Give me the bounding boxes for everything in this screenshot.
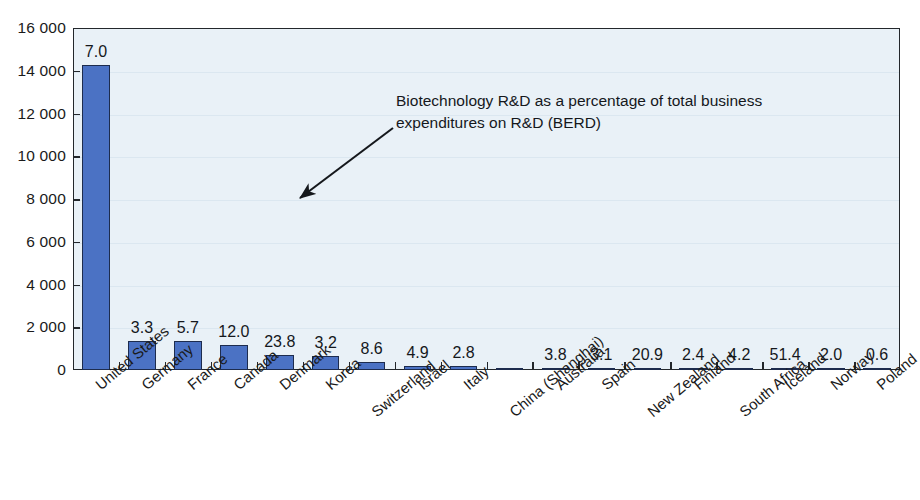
bar-slot: 2.8 <box>441 28 487 370</box>
annotation-callout: Biotechnology R&D as a percentage of tot… <box>396 90 816 135</box>
bar-value-label: 12.0 <box>218 323 249 341</box>
bar-slot: 2.0 <box>808 28 854 370</box>
y-axis-tick-label: 6 000 <box>26 233 66 251</box>
bar-slot: 4.9 <box>395 28 441 370</box>
bar-slot: 0.6 <box>854 28 900 370</box>
y-axis-tick-label: 14 000 <box>17 62 66 80</box>
bar-value-label: 5.7 <box>177 319 199 337</box>
bars-layer: 7.03.35.712.023.83.28.64.92.83.83.120.92… <box>73 28 900 370</box>
bar-slot: 3.8 <box>532 28 578 370</box>
bar-value-label: 20.9 <box>632 346 663 364</box>
x-axis-labels: United StatesGermanyFranceCanadaDenmarkK… <box>0 370 913 500</box>
bar[interactable] <box>82 65 110 370</box>
bar-slot: 12.0 <box>211 28 257 370</box>
y-axis-tick-label: 10 000 <box>17 147 66 165</box>
bar-slot: 3.3 <box>119 28 165 370</box>
y-axis-tick-label: 8 000 <box>26 190 66 208</box>
bar-slot: 51.4 <box>762 28 808 370</box>
bar-slot: 7.0 <box>73 28 119 370</box>
annotation-arrow-icon <box>280 125 400 210</box>
y-axis-tick-label: 2 000 <box>26 318 66 336</box>
annotation-line-1: Biotechnology R&D as a percentage of tot… <box>396 90 816 112</box>
bar-slot: 2.4 <box>670 28 716 370</box>
bar-slot: 20.9 <box>624 28 670 370</box>
bar-value-label: 2.8 <box>452 344 474 362</box>
y-axis: 16 00014 00012 00010 0008 0006 0004 0002… <box>0 28 66 370</box>
y-axis-tick-label: 12 000 <box>17 105 66 123</box>
bar-slot: 4.2 <box>716 28 762 370</box>
bar-value-label: 7.0 <box>85 43 107 61</box>
bar-slot: 5.7 <box>165 28 211 370</box>
bar-value-label: 8.6 <box>361 340 383 358</box>
bar-slot <box>487 28 533 370</box>
y-axis-tick-label: 16 000 <box>17 19 66 37</box>
annotation-line-2: expenditures on R&D (BERD) <box>396 112 816 134</box>
y-axis-tick-label: 4 000 <box>26 276 66 294</box>
bar-slot: 3.1 <box>578 28 624 370</box>
